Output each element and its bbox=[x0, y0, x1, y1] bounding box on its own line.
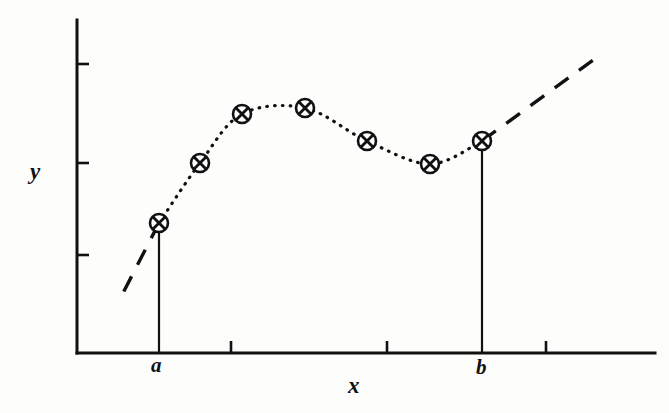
data-point-marker-5 bbox=[421, 155, 439, 173]
data-point-marker-0 bbox=[150, 214, 168, 232]
extrapolation-dashed-group bbox=[123, 55, 600, 293]
y-axis-label: y bbox=[30, 160, 40, 183]
data-point-marker-6 bbox=[473, 132, 491, 150]
extrapolation-dashed-0 bbox=[123, 223, 159, 293]
data-point-marker-3 bbox=[296, 99, 314, 117]
axes-group bbox=[77, 20, 655, 353]
x-tick-label-b: b bbox=[476, 357, 487, 378]
figure-canvas: y x a b bbox=[0, 0, 669, 413]
data-point-marker-2 bbox=[233, 105, 251, 123]
plot-svg bbox=[0, 0, 669, 413]
x-tick-label-a: a bbox=[151, 355, 162, 376]
extrapolation-dashed-1 bbox=[482, 55, 600, 141]
data-point-markers-group bbox=[150, 99, 491, 232]
data-point-marker-1 bbox=[191, 154, 209, 172]
x-axis-label: x bbox=[348, 374, 360, 397]
data-point-marker-4 bbox=[358, 132, 376, 150]
